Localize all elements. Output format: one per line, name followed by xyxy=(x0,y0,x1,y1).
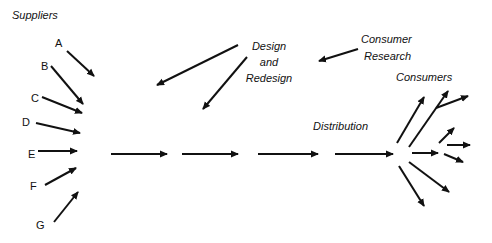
consumer-fan-arrows xyxy=(397,91,470,206)
suppliers-arrow-icon xyxy=(42,97,82,113)
suppliers-label: Suppliers xyxy=(12,9,58,21)
research-label-line1: Consumer xyxy=(361,33,412,45)
suppliers-arrow-icon xyxy=(54,192,78,222)
supplier-a-label: A xyxy=(55,37,62,49)
consumers-arrow-icon xyxy=(444,154,463,162)
supplier-b-label: B xyxy=(41,60,48,72)
design-label-line3: Redesign xyxy=(244,72,294,84)
supplier-f-label: F xyxy=(30,180,37,192)
research-arrow-icon xyxy=(319,49,358,61)
design-label-line2: and xyxy=(244,56,294,68)
consumers-arrow-icon xyxy=(439,128,454,143)
consumers-label: Consumers xyxy=(396,71,452,83)
suppliers-arrow-icon xyxy=(51,66,83,104)
flow-diagram xyxy=(0,0,492,243)
consumers-arrow-icon xyxy=(397,97,424,143)
design-label-line1: Design xyxy=(244,40,294,52)
research-label-line2: Research xyxy=(364,50,411,62)
consumer-research-arrows xyxy=(319,49,358,61)
design-redesign-arrows xyxy=(157,45,247,109)
suppliers-arrow-icon xyxy=(36,123,80,133)
design-arrow-icon xyxy=(157,45,238,85)
design-arrow-icon xyxy=(203,57,247,109)
distribution-label: Distribution xyxy=(313,120,368,132)
supplier-e-label: E xyxy=(28,148,35,160)
consumers-arrow-icon xyxy=(409,162,449,192)
supplier-c-label: C xyxy=(31,92,39,104)
consumers-arrow-icon xyxy=(399,166,424,206)
suppliers-arrow-icon xyxy=(45,168,76,185)
supplier-d-label: D xyxy=(22,116,30,128)
supplier-arrows xyxy=(36,51,94,222)
supplier-g-label: G xyxy=(36,219,45,231)
suppliers-arrow-icon xyxy=(67,51,94,76)
